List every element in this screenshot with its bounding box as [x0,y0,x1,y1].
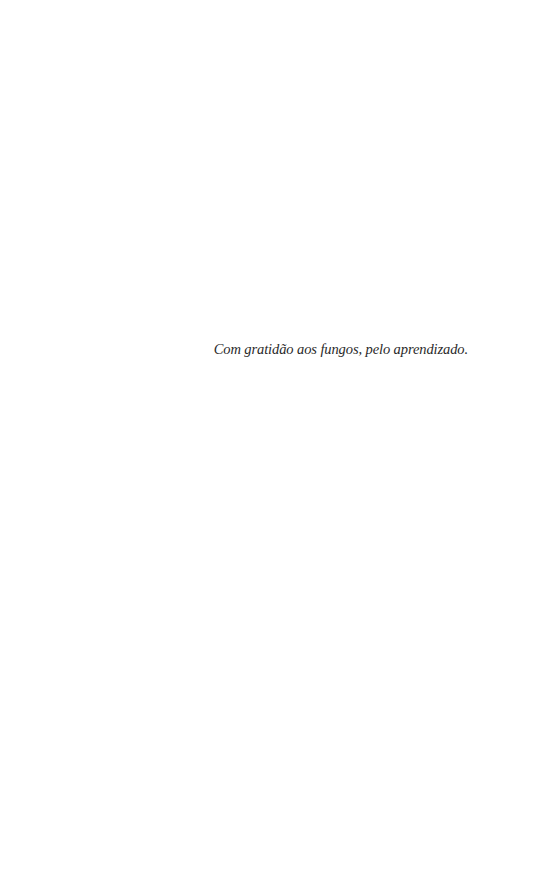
dedication-text: Com gratidão aos fungos, pelo aprendizad… [214,340,468,358]
book-page: Com gratidão aos fungos, pelo aprendizad… [0,0,556,869]
